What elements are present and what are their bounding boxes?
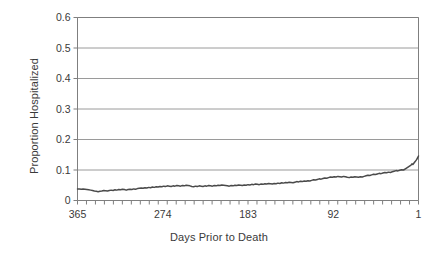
x-tick-label: 274 [154,208,172,220]
x-tick-label: 183 [239,208,257,220]
y-tick-label: 0.2 [56,133,71,145]
y-tick-label: 0.5 [56,42,71,54]
x-axis-minor-ticks-group [78,201,419,205]
gridlines-group [78,18,419,171]
x-tick-label: 92 [327,208,339,220]
x-axis-ticks-group: 365274183921 [69,208,422,220]
line-chart-plot: 00.10.20.30.40.50.6 365274183921 [0,0,438,255]
y-axis-title: Proportion Hospitalized [28,26,40,206]
y-tick-label: 0.4 [56,72,71,84]
data-series-line [78,156,419,192]
y-tick-label: 0 [65,194,71,206]
x-axis-title: Days Prior to Death [0,231,438,243]
x-tick-label: 1 [416,208,422,220]
chart-figure: 00.10.20.30.40.50.6 365274183921 Proport… [0,0,438,255]
y-tick-label: 0.6 [56,11,71,23]
y-tick-label: 0.3 [56,103,71,115]
y-tick-label: 0.1 [56,164,71,176]
x-tick-label: 365 [69,208,87,220]
y-axis-ticks-group: 00.10.20.30.40.50.6 [56,11,78,206]
